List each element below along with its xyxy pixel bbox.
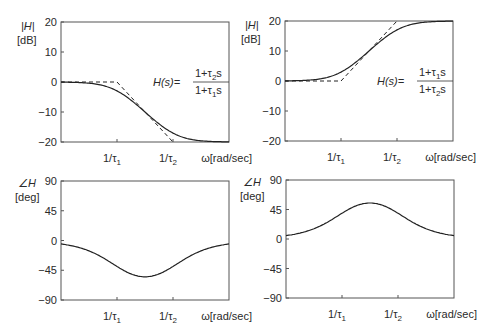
top-right-magnitude: 20100−10−201/τ11/τ2ω[rad/sec]|H|[dB]H(s)… bbox=[241, 15, 476, 166]
x-axis-label: ω[rad/sec] bbox=[426, 308, 477, 320]
y-axis-unit: [deg] bbox=[240, 190, 264, 202]
y-tick-label: 10 bbox=[45, 46, 57, 58]
y-tick-label: −10 bbox=[262, 105, 281, 117]
response-curve bbox=[286, 203, 454, 236]
x-tick-tau1: 1/τ1 bbox=[328, 308, 347, 323]
y-tick-label: 0 bbox=[275, 75, 281, 87]
formula-denominator: 1+τ2s bbox=[419, 83, 446, 98]
y-tick-label: −45 bbox=[38, 264, 57, 276]
y-tick-label: 20 bbox=[269, 15, 281, 27]
x-tick-tau2: 1/τ2 bbox=[159, 152, 178, 167]
y-axis-unit: [dB] bbox=[241, 33, 261, 45]
y-tick-label: 45 bbox=[270, 204, 282, 216]
y-tick-label: −90 bbox=[263, 292, 282, 304]
top-left-magnitude: 20100−10−201/τ11/τ2ω[rad/sec]|H|[dB]H(s)… bbox=[17, 16, 252, 167]
x-axis-label: ω[rad/sec] bbox=[201, 310, 252, 322]
formula-denominator: 1+τ1s bbox=[195, 84, 222, 99]
y-axis-title: ∠H bbox=[18, 177, 36, 189]
formula-lhs: H(s)= bbox=[153, 76, 181, 88]
x-tick-tau1: 1/τ1 bbox=[103, 152, 122, 167]
y-axis-unit: [dB] bbox=[17, 34, 37, 46]
y-tick-label: 10 bbox=[269, 45, 281, 57]
x-tick-tau2: 1/τ2 bbox=[384, 308, 403, 323]
bottom-left-phase: 90450−45−901/τ11/τ2ω[rad/sec]∠H[deg] bbox=[15, 175, 252, 325]
y-tick-label: 20 bbox=[45, 16, 57, 28]
response-curve bbox=[61, 244, 229, 277]
transfer-function: H(s)=1+τ2s1+τ1s bbox=[153, 67, 229, 99]
formula-numerator: 1+τ1s bbox=[419, 66, 446, 81]
transfer-function: H(s)=1+τ1s1+τ2s bbox=[377, 66, 453, 98]
y-tick-label: 0 bbox=[51, 235, 57, 247]
y-axis-title: ∠H bbox=[243, 176, 261, 188]
y-axis-title: |H| bbox=[21, 20, 35, 32]
x-tick-tau2: 1/τ2 bbox=[159, 310, 178, 325]
y-tick-label: 0 bbox=[276, 233, 282, 245]
y-tick-label: −20 bbox=[38, 136, 57, 148]
bode-plots: 20100−10−201/τ11/τ2ω[rad/sec]|H|[dB]H(s)… bbox=[0, 0, 493, 332]
x-tick-tau1: 1/τ1 bbox=[103, 310, 122, 325]
plot-frame bbox=[286, 180, 454, 298]
y-tick-label: −90 bbox=[38, 294, 57, 306]
plot-frame bbox=[61, 181, 229, 300]
x-tick-tau2: 1/τ2 bbox=[383, 151, 402, 166]
y-tick-label: −10 bbox=[38, 106, 57, 118]
y-tick-label: 45 bbox=[45, 205, 57, 217]
y-tick-label: −45 bbox=[263, 263, 282, 275]
y-axis-title: |H| bbox=[245, 19, 259, 31]
y-tick-label: −20 bbox=[262, 135, 281, 147]
formula-lhs: H(s)= bbox=[377, 75, 405, 87]
y-axis-unit: [deg] bbox=[15, 191, 39, 203]
x-tick-tau1: 1/τ1 bbox=[327, 151, 346, 166]
y-tick-label: 90 bbox=[270, 174, 282, 186]
y-tick-label: 0 bbox=[51, 76, 57, 88]
formula-numerator: 1+τ2s bbox=[195, 67, 222, 82]
y-tick-label: 90 bbox=[45, 175, 57, 187]
x-axis-label: ω[rad/sec] bbox=[201, 152, 252, 164]
bottom-right-phase: 90450−45−901/τ11/τ2ω[rad/sec]∠H[deg] bbox=[240, 174, 477, 323]
x-axis-label: ω[rad/sec] bbox=[425, 151, 476, 163]
